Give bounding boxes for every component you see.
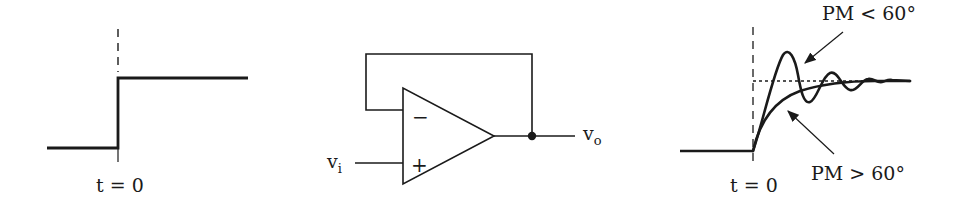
step-input-panel: t = 0 (47, 29, 248, 196)
pm-less-label: PM < 60° (822, 2, 916, 24)
pm-greater-label: PM > 60° (811, 162, 905, 184)
output-node-dot (528, 132, 536, 140)
input-voltage-label: vi (326, 150, 342, 176)
pm-greater-arrow (788, 111, 834, 154)
underdamped-curve (753, 52, 910, 151)
output-voltage-symbol: v (582, 122, 594, 144)
figure-canvas: t = 0 − + vi vo PM < 6 (0, 0, 961, 207)
response-time-label: t = 0 (730, 174, 778, 196)
output-voltage-label: vo (582, 122, 602, 148)
overdamped-curve (753, 81, 910, 151)
noninverting-input-symbol: + (411, 153, 428, 177)
pm-less-arrow (805, 32, 843, 63)
input-voltage-symbol: v (326, 150, 338, 172)
output-voltage-subscript: o (594, 133, 602, 148)
step-response-panel: PM < 60° PM > 60° t = 0 (680, 2, 916, 196)
input-voltage-subscript: i (338, 161, 342, 176)
voltage-follower-panel: − + vi vo (326, 54, 602, 184)
inverting-input-symbol: − (412, 105, 429, 129)
step-signal (47, 78, 248, 148)
step-time-label: t = 0 (96, 174, 144, 196)
